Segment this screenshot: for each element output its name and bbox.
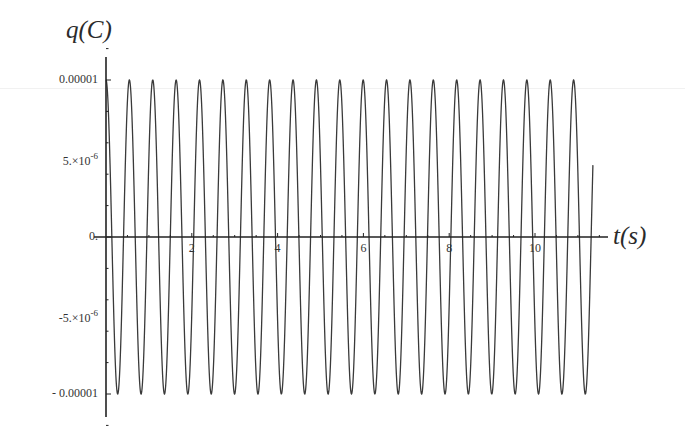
x-tick-label: 8 [439, 241, 459, 256]
plot-area [0, 0, 685, 434]
x-axis-title: t(s) [613, 222, 646, 250]
y-tick-label: - 0.00001 [20, 386, 98, 401]
x-tick-label: 10 [525, 241, 545, 256]
axes [94, 49, 608, 426]
x-tick-label: 6 [353, 241, 373, 256]
x-tick-label: 4 [268, 241, 288, 256]
y-axis-title: q(C) [66, 16, 112, 44]
x-tick-label: 2 [182, 241, 202, 256]
y-tick-label: 5.×10-6 [20, 151, 98, 169]
y-tick-label: 0.00001 [20, 72, 98, 87]
y-tick-label: 0. [20, 229, 98, 244]
y-tick-label: -5.×10-6 [20, 308, 98, 326]
